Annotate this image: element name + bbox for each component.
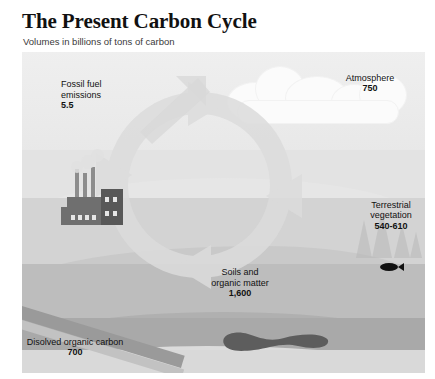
page-subtitle: Volumes in billions of tons of carbon <box>23 36 175 47</box>
page-title: The Present Carbon Cycle <box>22 9 257 34</box>
fish-icon <box>380 262 404 272</box>
diagram-scene: Fossil fuel emissions 5.5 Atmosphere 750… <box>22 50 425 373</box>
header: The Present Carbon Cycle Volumes in bill… <box>0 0 435 52</box>
oil-deposit-icon <box>218 328 330 354</box>
label-terrestrial-vegetation: Terrestrial vegetation 540-610 <box>350 200 425 232</box>
carbon-cycle-infographic: The Present Carbon Cycle Volumes in bill… <box>0 0 435 379</box>
label-soils: Soils and organic matter 1,600 <box>188 267 292 299</box>
factory-icon <box>57 167 129 227</box>
label-dissolved-organic-carbon: Disolved organic carbon 700 <box>22 337 142 358</box>
label-atmosphere: Atmosphere 750 <box>322 73 418 94</box>
